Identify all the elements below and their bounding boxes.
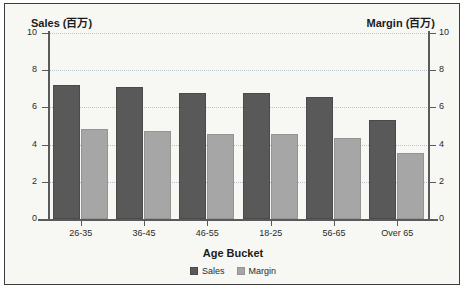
y-axis-left-tick-label: 6: [15, 101, 37, 111]
left-axis-title: Sales (百万): [31, 14, 92, 30]
y-axis-right-tick-label: 8: [439, 64, 463, 74]
bar-margin-56-65: [334, 138, 361, 219]
bar-margin-Over 65: [397, 153, 424, 219]
chart-card: Sales (百万) Margin (百万) 1086420 1086420 2…: [4, 3, 460, 285]
y-axis-right-tick: [429, 107, 436, 108]
legend-swatch-icon: [237, 267, 245, 275]
x-axis-tick-label: Over 65: [367, 228, 427, 238]
x-axis-tick-label: 18-25: [241, 228, 301, 238]
bar-margin-26-35: [81, 129, 108, 219]
y-axis-left-tick-label: 10: [15, 27, 37, 37]
x-axis-tick: [271, 221, 272, 226]
x-axis-tick-label: 36-45: [114, 228, 174, 238]
bar-sales-18-25: [243, 93, 270, 219]
legend-label: Margin: [249, 266, 277, 276]
x-axis-tick: [207, 221, 208, 226]
y-axis-right-tick-label: 4: [439, 139, 463, 149]
y-axis-right-tick: [429, 182, 436, 183]
legend-swatch-icon: [190, 267, 198, 275]
x-axis-tick-label: 56-65: [304, 228, 364, 238]
y-axis-left-tick-label: 8: [15, 64, 37, 74]
y-axis-left-tick-label: 2: [15, 176, 37, 186]
y-axis-right-tick-label: 10: [439, 27, 463, 37]
bar-sales-56-65: [306, 97, 333, 219]
bar-sales-36-45: [116, 87, 143, 219]
x-axis-tick: [81, 221, 82, 226]
y-axis-right-tick-label: 2: [439, 176, 463, 186]
right-axis-title: Margin (百万): [367, 14, 435, 30]
chart-plot-region: Sales (百万) Margin (百万) 1086420 1086420 2…: [5, 4, 459, 284]
bar-sales-46-55: [179, 93, 206, 219]
y-axis-right-tick: [429, 70, 436, 71]
x-axis-title: Age Bucket: [5, 247, 461, 259]
y-axis-left-tick: [42, 182, 49, 183]
y-axis-right-tick: [429, 145, 436, 146]
bars-layer: [49, 33, 429, 219]
x-axis-tick: [144, 221, 145, 226]
bar-sales-26-35: [53, 85, 80, 219]
y-axis-right-tick-label: 6: [439, 101, 463, 111]
chart-legend: SalesMargin: [5, 266, 461, 276]
x-axis-line: [38, 219, 438, 221]
legend-item-margin[interactable]: Margin: [237, 266, 277, 276]
legend-item-sales[interactable]: Sales: [190, 266, 225, 276]
x-axis-tick: [334, 221, 335, 226]
x-axis-tick-label: 46-55: [177, 228, 237, 238]
bar-margin-36-45: [144, 131, 171, 219]
y-axis-left-tick-label: 0: [15, 213, 37, 223]
y-axis-right-tick-label: 0: [439, 213, 463, 223]
bar-sales-Over 65: [369, 120, 396, 219]
bar-margin-46-55: [207, 134, 234, 219]
y-axis-left-tick-label: 4: [15, 139, 37, 149]
y-axis-left-tick: [42, 107, 49, 108]
x-axis-tick: [397, 221, 398, 226]
legend-label: Sales: [202, 266, 225, 276]
y-axis-left-tick: [42, 33, 49, 34]
y-axis-right-tick: [429, 219, 436, 220]
y-axis-right-tick: [429, 33, 436, 34]
y-axis-left-tick: [42, 145, 49, 146]
bar-margin-18-25: [271, 134, 298, 219]
x-axis-tick-label: 26-35: [51, 228, 111, 238]
y-axis-left-tick: [42, 219, 49, 220]
y-axis-left-tick: [42, 70, 49, 71]
